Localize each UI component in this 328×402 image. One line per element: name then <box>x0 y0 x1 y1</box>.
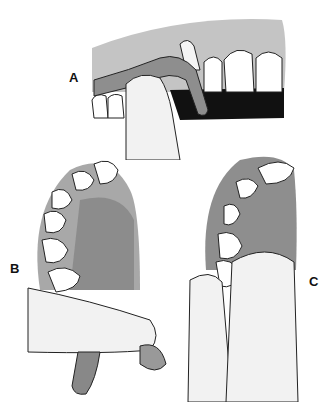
panel-label-b: B <box>10 261 19 276</box>
panel-a: A <box>0 0 328 160</box>
panel-c-illustration <box>170 150 328 402</box>
panel-b: B <box>0 150 170 402</box>
panel-label-a: A <box>69 70 78 85</box>
panel-label-c: C <box>309 274 318 289</box>
panel-a-illustration <box>0 0 328 160</box>
panel-b-illustration <box>0 150 170 402</box>
panel-c: C <box>170 150 328 402</box>
